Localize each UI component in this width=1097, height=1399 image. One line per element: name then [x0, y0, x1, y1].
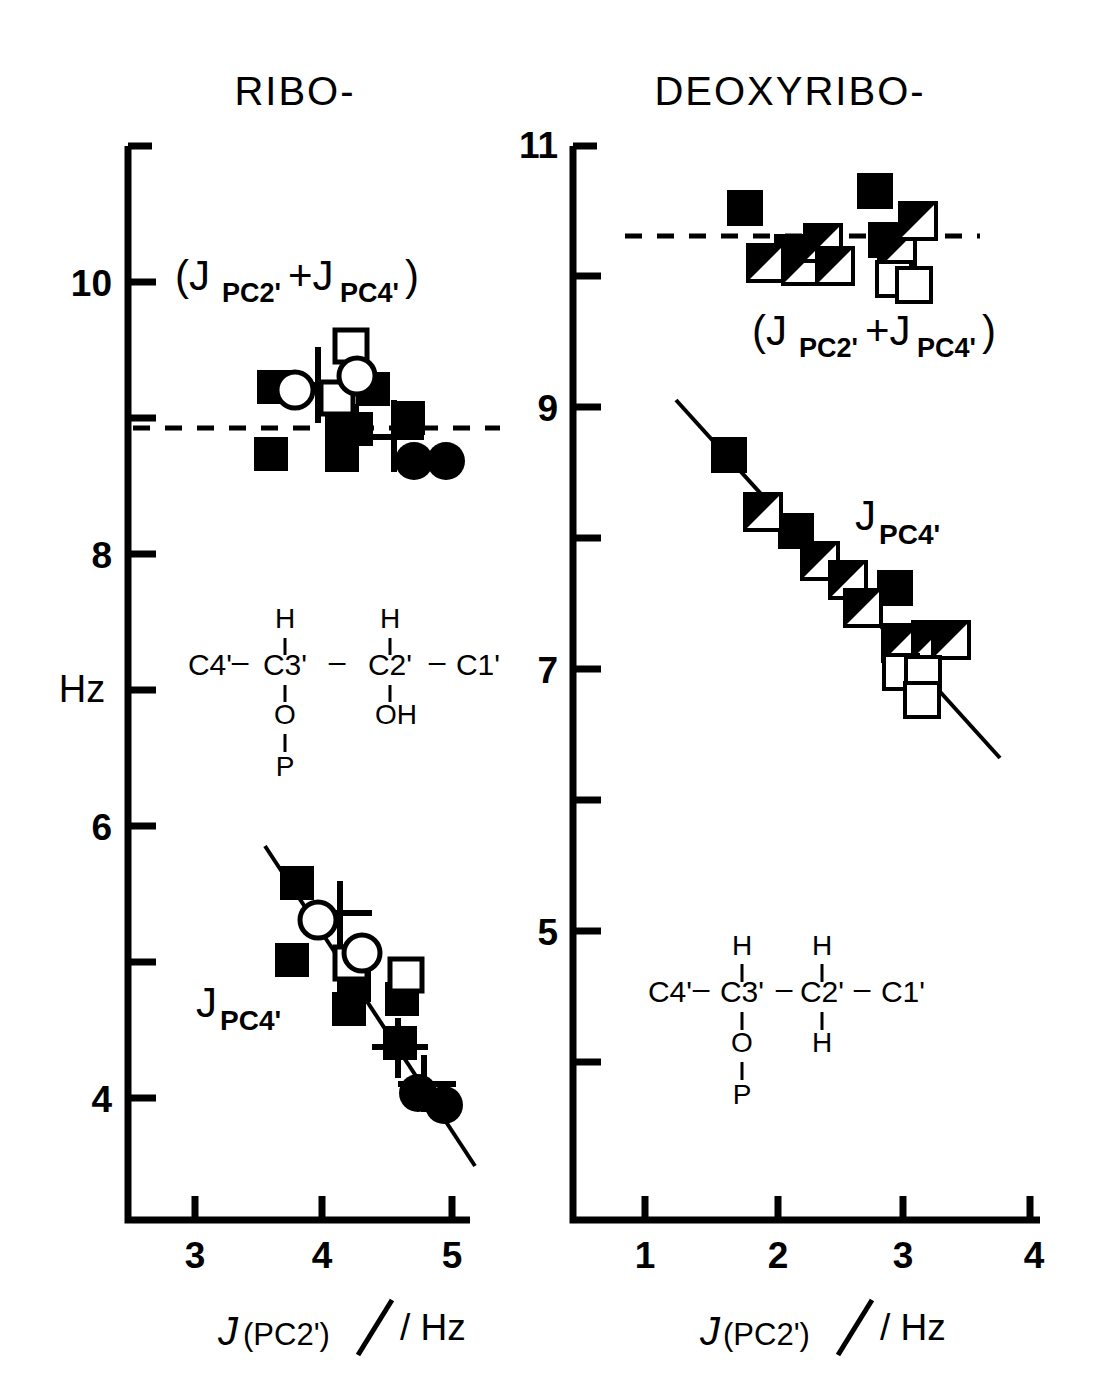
y-tick-label-7: 7	[537, 650, 558, 691]
y-tick-label-11: 11	[519, 125, 558, 166]
open-square-marker	[390, 959, 422, 991]
structure-h-bottom: H	[812, 1027, 832, 1058]
label-j-pc4: J	[196, 979, 217, 1026]
structure-p: P	[276, 751, 295, 782]
structure-c3: C3'	[720, 975, 764, 1008]
x-tick-label-3: 3	[893, 1235, 914, 1276]
structure-o: O	[731, 1027, 753, 1058]
structure-c1: C1'	[456, 648, 500, 681]
filled-square-marker	[254, 437, 288, 471]
structure-h-right: H	[380, 603, 400, 634]
label-open-j: (J	[752, 307, 787, 354]
label-sub-pc4: PC4'	[340, 278, 399, 308]
structure-oh: OH	[375, 699, 417, 730]
bond-c2-c1: –	[429, 645, 446, 678]
structure-p: P	[733, 1079, 752, 1110]
structure-c3: C3'	[263, 648, 307, 681]
label-j-pc4: J	[855, 492, 876, 539]
x-tick-label-2: 2	[768, 1235, 789, 1276]
open-square-marker	[905, 683, 939, 717]
structure-h-left: H	[732, 930, 752, 961]
x-tick-label-3: 3	[185, 1235, 206, 1276]
label-plus-j: +J	[865, 307, 911, 354]
y-tick-label-4: 4	[91, 1079, 112, 1120]
open-circle-marker	[339, 358, 375, 394]
filled-circle-marker	[425, 1086, 463, 1124]
x-caption-j: J	[217, 1309, 239, 1353]
structure-c4: C4'	[648, 975, 692, 1008]
open-circle-marker	[344, 935, 380, 971]
label-close-paren: )	[405, 252, 419, 299]
y-tick-label-9: 9	[537, 388, 558, 429]
filled-circle-marker	[427, 442, 465, 480]
structure-c2: C2'	[368, 648, 412, 681]
open-circle-marker	[300, 902, 336, 938]
label-j-pc4-sub: PC4'	[220, 1005, 281, 1036]
structure-c2: C2'	[800, 975, 844, 1008]
y-tick-label-6: 6	[91, 807, 112, 848]
filled-square-marker	[711, 437, 747, 473]
bond-c3-c2: –	[776, 972, 793, 1005]
label-j-pc4-sub: PC4'	[879, 519, 940, 550]
structure-c4: C4'	[188, 648, 232, 681]
x-caption-unit: / Hz	[400, 1307, 466, 1348]
bond-c4-c3: –	[693, 972, 710, 1005]
y-tick-label-10: 10	[71, 263, 112, 304]
structure-c1: C1'	[881, 975, 925, 1008]
half-square-marker	[745, 494, 781, 530]
half-square-marker	[900, 203, 936, 239]
x-tick-label-1: 1	[635, 1235, 656, 1276]
x-caption-unit: / Hz	[880, 1307, 946, 1348]
figure-canvas: RIBO- 10 8 6 4 Hz	[0, 0, 1097, 1399]
filled-square-marker	[391, 401, 425, 435]
filled-square-marker	[332, 992, 366, 1026]
panel-title-ribo: RIBO-	[234, 69, 355, 113]
x-caption-j: J	[699, 1309, 721, 1353]
bond-c2-c1: –	[854, 972, 871, 1005]
label-sub-pc2: PC2'	[799, 333, 858, 363]
filled-square-marker	[857, 173, 893, 209]
filled-square-marker	[325, 438, 359, 472]
panel-title-deoxyribo: DEOXYRIBO-	[654, 69, 925, 113]
half-square-marker	[748, 245, 784, 281]
x-caption-sub: (PC2')	[723, 1317, 810, 1352]
x-tick-label-4: 4	[312, 1235, 333, 1276]
filled-square-marker	[275, 943, 309, 977]
open-circle-marker	[277, 372, 313, 408]
label-open-j: (J	[175, 252, 210, 299]
scientific-figure: RIBO- 10 8 6 4 Hz	[0, 0, 1097, 1399]
open-square-marker	[897, 268, 931, 302]
y-tick-label-5: 5	[537, 912, 558, 953]
filled-square-marker	[280, 866, 314, 900]
label-plus-j: +J	[288, 252, 334, 299]
bond-c3-c2: –	[329, 645, 346, 678]
bond-c4-c3: –	[232, 645, 249, 678]
label-close-paren: )	[982, 307, 996, 354]
x-caption-sub: (PC2')	[243, 1317, 330, 1352]
structure-h-right: H	[812, 930, 832, 961]
structure-o: O	[274, 699, 296, 730]
filled-square-marker	[383, 1026, 417, 1060]
y-tick-label-8: 8	[91, 535, 112, 576]
half-square-marker	[817, 248, 853, 284]
filled-square-marker	[727, 190, 763, 226]
half-square-marker	[933, 622, 969, 658]
y-axis-label-hz: Hz	[59, 668, 105, 710]
x-tick-label-4: 4	[1024, 1235, 1045, 1276]
label-sub-pc4: PC4'	[917, 333, 976, 363]
structure-h-left: H	[275, 603, 295, 634]
label-sub-pc2: PC2'	[222, 278, 281, 308]
half-square-marker	[845, 590, 881, 626]
x-tick-label-5: 5	[442, 1235, 463, 1276]
